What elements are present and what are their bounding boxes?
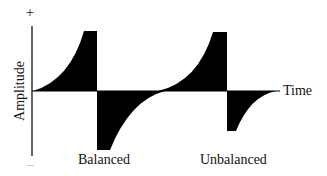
balanced-positive-lobe <box>33 31 97 91</box>
waveform-diagram <box>0 0 327 176</box>
unbalanced-positive-lobe <box>158 32 227 91</box>
minus-symbol: – <box>27 158 34 172</box>
unbalanced-negative-lobe <box>227 91 276 131</box>
amplitude-label: Amplitude <box>12 61 28 121</box>
unbalanced-label: Unbalanced <box>200 153 267 167</box>
balanced-label: Balanced <box>78 153 130 167</box>
time-label: Time <box>283 84 312 98</box>
plus-symbol: + <box>26 6 34 20</box>
balanced-negative-lobe <box>97 91 165 150</box>
